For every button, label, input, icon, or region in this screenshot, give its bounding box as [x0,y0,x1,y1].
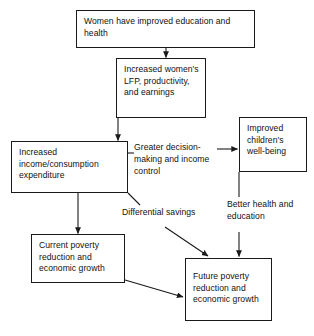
edge-differential-savings-to-future-poverty [165,227,208,256]
node-improved-children[interactable]: Improved children's well-being [239,117,307,172]
label-better-health-education: Better health and education [227,199,307,223]
edge-current-poverty-to-future-poverty [125,280,183,297]
flowchart-diagram: Women have improved education and health… [0,0,314,336]
edge-income-to-differential-savings [128,193,140,205]
node-increased-income[interactable]: Increased income/consumption expenditure [11,141,128,193]
node-increased-lfp[interactable]: Increased women's LFP, productivity, and… [116,58,206,118]
node-women-education-health[interactable]: Women have improved education and health [76,10,255,48]
node-current-poverty[interactable]: Current poverty reduction and economic g… [31,234,125,283]
label-greater-decision-making: Greater decision-making and income contr… [134,142,218,177]
node-future-poverty[interactable]: Future poverty reduction and economic gr… [185,258,272,321]
label-differential-savings: Differential savings [122,207,217,219]
